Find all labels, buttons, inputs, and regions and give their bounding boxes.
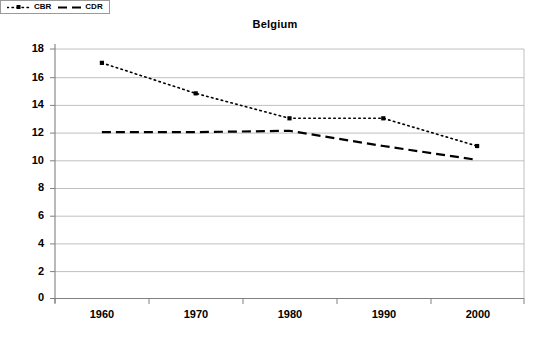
legend-entry-cdr[interactable]: CDR <box>58 3 102 11</box>
series-line-cbr <box>102 63 477 146</box>
x-tick-label: 2000 <box>466 308 490 320</box>
data-point-cbr-1970 <box>194 91 198 95</box>
data-point-cbr-1980 <box>287 116 291 120</box>
plot-area: 18 16 14 12 10 8 6 4 2 0 1960 1970 1980 … <box>0 0 550 364</box>
x-tick-label: 1970 <box>184 308 208 320</box>
data-point-cbr-1960 <box>100 61 104 65</box>
chart-legend: CBR CDR <box>0 0 110 14</box>
legend-label-cdr: CDR <box>85 3 102 11</box>
y-axis-labels: 18 16 14 12 10 8 6 4 2 0 <box>32 42 45 304</box>
data-point-cbr-1990 <box>381 116 385 120</box>
chart-container: Belgium <box>0 0 550 364</box>
y-tick-marks <box>50 49 55 299</box>
data-series-layer <box>100 61 479 160</box>
legend-label-cbr: CBR <box>34 3 51 11</box>
series-line-cdr <box>102 131 477 160</box>
data-point-cbr-2000 <box>475 144 479 148</box>
x-tick-label: 1980 <box>278 308 302 320</box>
gridlines <box>55 49 524 272</box>
y-tick-label: 6 <box>38 209 44 221</box>
y-tick-label: 12 <box>32 126 44 138</box>
y-tick-label: 18 <box>32 42 44 54</box>
y-tick-label: 14 <box>32 98 45 110</box>
x-axis-labels: 1960 1970 1980 1990 2000 <box>90 308 490 320</box>
y-tick-label: 16 <box>32 71 44 83</box>
y-tick-label: 10 <box>32 154 44 166</box>
y-tick-label: 8 <box>38 181 44 193</box>
x-tick-label: 1960 <box>90 308 114 320</box>
legend-swatch-cbr <box>7 4 31 11</box>
x-tick-marks <box>55 299 524 305</box>
y-tick-label: 4 <box>38 237 45 249</box>
y-tick-label: 2 <box>38 265 44 277</box>
y-tick-label: 0 <box>38 291 44 303</box>
legend-swatch-cdr <box>58 4 82 11</box>
legend-entry-cbr[interactable]: CBR <box>7 3 51 11</box>
x-tick-label: 1990 <box>372 308 396 320</box>
